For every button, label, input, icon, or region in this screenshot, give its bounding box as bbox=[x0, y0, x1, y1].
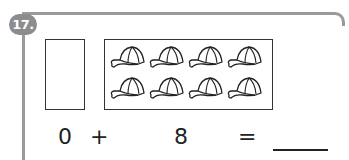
baseball-cap-icon bbox=[228, 78, 261, 98]
baseball-cap-icon bbox=[189, 78, 222, 98]
plus-sign: + bbox=[90, 124, 108, 150]
empty-group-box bbox=[45, 39, 85, 110]
problem-number-badge: 17. bbox=[9, 14, 37, 35]
baseball-cap-icon bbox=[228, 47, 261, 67]
caps-group-box bbox=[104, 39, 273, 110]
baseball-cap-icon bbox=[111, 47, 144, 67]
answer-blank[interactable] bbox=[273, 149, 328, 151]
frame-border-top bbox=[22, 12, 345, 26]
baseball-cap-icon bbox=[189, 47, 222, 67]
caps-illustration bbox=[104, 39, 273, 110]
baseball-cap-icon bbox=[150, 47, 183, 67]
equals-sign: = bbox=[238, 124, 256, 150]
baseball-cap-icon bbox=[111, 78, 144, 98]
frame-border-left bbox=[22, 18, 25, 160]
baseball-cap-icon bbox=[150, 78, 183, 98]
addend-left: 0 bbox=[58, 124, 72, 150]
addend-right: 8 bbox=[174, 124, 188, 150]
